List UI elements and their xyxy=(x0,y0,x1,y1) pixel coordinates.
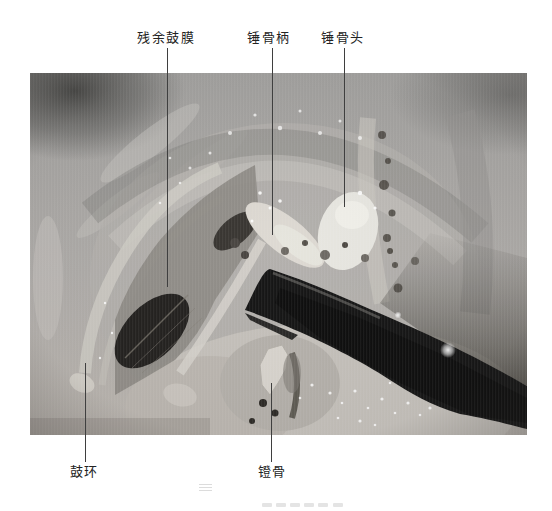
leader-malleus-handle xyxy=(272,48,273,235)
leader-residual-tympanic-membrane xyxy=(167,48,168,287)
label-stapes: 镫骨 xyxy=(258,465,287,479)
leader-malleus-head xyxy=(344,48,345,207)
surgical-photo-middle-ear xyxy=(30,73,527,435)
figure-page: 残余鼓膜 锤骨柄 锤骨头 鼓环 镫骨 xyxy=(0,0,552,511)
leader-stapes xyxy=(271,383,272,462)
label-malleus-head: 锤骨头 xyxy=(321,31,365,45)
label-residual-tympanic-membrane: 残余鼓膜 xyxy=(137,31,195,45)
leader-tympanic-annulus xyxy=(85,363,86,462)
label-tympanic-annulus: 鼓环 xyxy=(70,465,99,479)
label-malleus-handle: 锤骨柄 xyxy=(247,31,291,45)
